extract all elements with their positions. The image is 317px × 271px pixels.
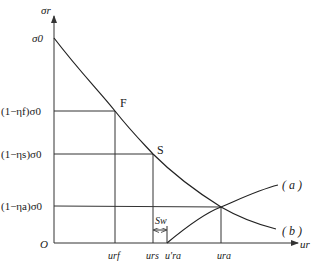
x-axis-label: ur bbox=[300, 238, 311, 250]
curve-a-label: ( a ) bbox=[282, 178, 302, 192]
y-tick-sigma0: σ0 bbox=[32, 32, 43, 44]
point-f-label: F bbox=[120, 96, 127, 110]
axes bbox=[54, 16, 298, 243]
curve-b-label: ( b ) bbox=[282, 224, 302, 238]
guide-a-horizontal bbox=[54, 206, 221, 207]
origin-label: O bbox=[40, 238, 48, 250]
x-tick-ura-prime: u′ra bbox=[165, 250, 181, 261]
sw-dimension bbox=[154, 226, 167, 243]
x-tick-ura: ura bbox=[217, 250, 231, 261]
sw-label: Sw bbox=[155, 215, 167, 226]
y-tick-eta-a: (1−ηa)σ0 bbox=[1, 200, 43, 213]
curve-b-ground-reaction bbox=[54, 38, 276, 229]
curve-a-support bbox=[167, 185, 278, 243]
point-s-label: S bbox=[157, 143, 164, 157]
x-tick-urs: urs bbox=[146, 250, 159, 261]
y-tick-eta-s: (1−ηs)σ0 bbox=[1, 148, 42, 161]
x-tick-urf: urf bbox=[108, 250, 121, 261]
diagram-canvas: σr σ0 (1−ηf)σ0 (1−ηs)σ0 (1−ηa)σ0 O urf u… bbox=[0, 0, 317, 271]
y-axis-label: σr bbox=[41, 4, 51, 16]
y-tick-eta-f: (1−ηf)σ0 bbox=[1, 105, 41, 118]
guide-lines bbox=[54, 111, 221, 243]
